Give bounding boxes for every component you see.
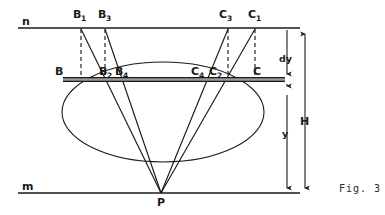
label-B4: B 4: [115, 65, 128, 80]
label-C4: C 4: [191, 65, 204, 80]
dimension-y-label: y: [282, 128, 289, 139]
svg-text:3: 3: [106, 14, 111, 23]
apex-label-P: P: [157, 196, 165, 209]
svg-text:1: 1: [81, 14, 86, 23]
figure-3-diagram: n m B 1 B 3 C 3 C 1: [0, 0, 385, 215]
svg-text:C: C: [209, 65, 217, 78]
svg-text:C: C: [219, 8, 227, 21]
svg-text:4: 4: [123, 71, 128, 80]
ray-c1-to-p: [161, 29, 255, 193]
svg-text:C: C: [253, 65, 261, 78]
dimension-dy-label: dy: [279, 53, 293, 64]
dimension-H-label: H: [300, 115, 309, 128]
svg-text:B: B: [55, 65, 63, 78]
label-B3: B 3: [98, 8, 111, 23]
ray-bundle: [81, 29, 255, 193]
ellipse-region: [62, 62, 264, 162]
svg-text:2: 2: [217, 71, 222, 80]
diagram-canvas: n m B 1 B 3 C 3 C 1: [0, 0, 385, 215]
label-C: C: [253, 65, 261, 78]
label-B: B: [55, 65, 63, 78]
line-m-label: m: [22, 180, 33, 193]
svg-text:2: 2: [107, 71, 112, 80]
slab-band: [63, 78, 285, 82]
line-n-label: n: [22, 15, 30, 28]
ray-c3-to-p: [161, 29, 228, 193]
ray-b3-to-p: [105, 29, 161, 193]
ray-b1-to-p: [81, 29, 161, 193]
svg-text:1: 1: [256, 14, 261, 23]
label-B2: B 2: [99, 65, 112, 80]
label-B1: B 1: [73, 8, 86, 23]
svg-text:4: 4: [199, 71, 204, 80]
label-C1: C 1: [248, 8, 261, 23]
svg-text:3: 3: [227, 14, 232, 23]
label-C3: C 3: [219, 8, 232, 23]
svg-text:C: C: [248, 8, 256, 21]
label-C2: C 2: [209, 65, 222, 80]
figure-caption: Fig. 3: [339, 183, 381, 194]
svg-text:C: C: [191, 65, 199, 78]
